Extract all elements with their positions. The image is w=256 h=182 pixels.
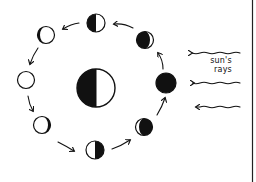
sun-ray-3 (196, 106, 240, 108)
earth (77, 69, 115, 107)
arrow-last-quarter-to-waning-crescent (112, 140, 130, 149)
sun-ray-1 (192, 52, 240, 54)
arrow-waxing-gibbous-to-full (30, 48, 38, 64)
moon-full (18, 72, 35, 89)
moon-waxing-gibbous (38, 27, 55, 44)
arrow-waning-crescent-to-new (157, 98, 165, 115)
sun-rays-label-line2: rays (205, 66, 241, 74)
sun-rays-label-line1: sun's (203, 57, 239, 65)
moon-waning-crescent (136, 119, 153, 136)
moon-waxing-crescent (137, 32, 154, 49)
arrow-full-to-waning-gibbous (28, 96, 33, 111)
sun-ray-2 (192, 82, 240, 84)
arrow-waning-gibbous-to-last-quarter (58, 142, 74, 151)
moon-new (156, 73, 176, 93)
arrow-first-quarter-to-waxing-gibbous (63, 23, 79, 29)
moon-last-quarter (86, 141, 104, 159)
arrow-waxing-crescent-to-first-quarter (114, 24, 133, 28)
moon-waning-gibbous (34, 117, 51, 134)
arrow-new-to-waxing-crescent (158, 53, 163, 69)
moon-first-quarter (87, 14, 105, 32)
moon-phases-diagram (0, 0, 256, 182)
